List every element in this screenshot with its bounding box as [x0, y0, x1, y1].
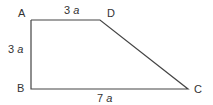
side-ad-number: 3 — [64, 4, 70, 16]
side-ab-number: 3 — [8, 43, 14, 55]
vertex-label-a: A — [18, 7, 26, 19]
vertex-label-b: B — [17, 82, 24, 94]
side-ad-variable: a — [73, 4, 79, 16]
vertex-label-d: D — [107, 7, 115, 19]
side-label-bc: 7 a — [97, 92, 112, 104]
side-label-ab: 3 a — [8, 43, 23, 55]
side-bc-number: 7 — [97, 92, 103, 104]
trapezoid-diagram: A B C D 3 a 3 a 7 a — [0, 0, 213, 105]
side-label-ad: 3 a — [64, 4, 79, 16]
trapezoid-outline — [31, 20, 188, 89]
vertex-label-c: C — [194, 83, 202, 95]
side-ab-variable: a — [17, 43, 23, 55]
side-bc-variable: a — [106, 92, 112, 104]
